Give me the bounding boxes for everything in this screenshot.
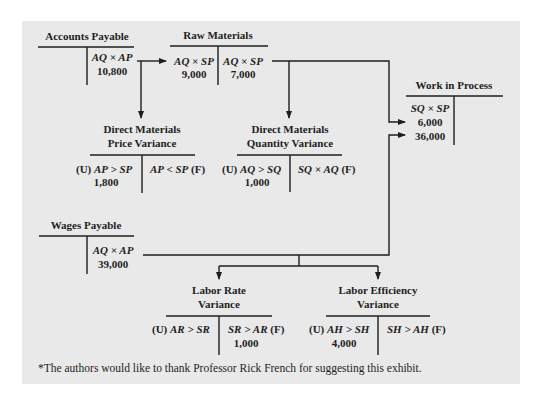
wages-payable-credit-value: 39,000 [98,257,128,271]
labor-rate-variance-credit-value: 1,000 [234,336,259,350]
work-in-process-debit-formula: SQ × SP [411,101,450,115]
labor-efficiency-variance-credit: SH > AH (F) [387,322,446,336]
raw-materials-credit-formula: AQ × SP [223,54,263,68]
work-in-process-debit-value-2: 36,000 [415,129,445,143]
wages-payable-credit-formula: AQ × AP [93,243,134,257]
labor-rate-variance-debit: (U) AR > SR [152,322,210,336]
dm-quantity-variance-debit-value: 1,000 [245,175,270,189]
labor-rate-variance-credit: SR > AR (F) [228,322,284,336]
labor-efficiency-variance-debit: (U) AH > SH [309,322,369,336]
labor-efficiency-variance-title-2: Variance [357,297,399,311]
raw-materials-debit-formula: AQ × SP [174,54,214,68]
labor-rate-variance-title-2: Variance [198,297,240,311]
raw-materials-title: Raw Materials [183,28,252,42]
dm-quantity-variance-title-1: Direct Materials [251,122,328,136]
labor-efficiency-variance-debit-value: 4,000 [332,336,357,350]
dm-price-variance-title-1: Direct Materials [103,122,180,136]
labor-rate-variance-title-1: Labor Rate [192,283,246,297]
work-in-process-debit-value-1: 6,000 [418,115,443,129]
labor-efficiency-variance-title-1: Labor Efficiency [339,283,418,297]
work-in-process-title: Work in Process [416,78,493,92]
raw-materials-debit-value: 9,000 [182,67,207,81]
dm-quantity-variance-credit: SQ × AQ (F) [298,162,356,176]
accounts-payable-title: Accounts Payable [45,29,128,43]
dm-quantity-variance-debit: (U) AQ > SQ [222,162,281,176]
dm-price-variance-debit-value: 1,800 [94,175,119,189]
dm-quantity-variance-title-2: Quantity Variance [247,136,333,150]
wages-payable-title: Wages Payable [51,218,122,232]
dm-price-variance-credit: AP < SP (F) [150,162,205,176]
dm-price-variance-debit: (U) AP > SP [76,162,132,176]
footnote: *The authors would like to thank Profess… [38,361,422,375]
raw-materials-credit-value: 7,000 [231,67,256,81]
accounts-payable-credit-formula: AQ × AP [92,50,133,64]
accounts-payable-credit-value: 10,800 [97,64,127,78]
dm-price-variance-title-2: Price Variance [108,136,177,150]
